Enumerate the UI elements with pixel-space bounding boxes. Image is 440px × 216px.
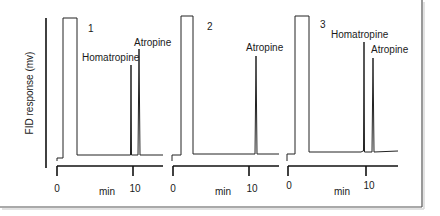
tick-label-10: 10	[129, 183, 141, 194]
peak-label-atropine: Atropine	[246, 42, 284, 53]
tick-label-0: 0	[286, 180, 292, 191]
tick-label-10: 10	[246, 183, 258, 194]
panel-number: 2	[207, 21, 213, 32]
x-axis-unit-label: min	[99, 186, 115, 197]
time-axis-3	[288, 166, 398, 176]
panel-2: 0 10 min 2 Atropine	[170, 16, 283, 197]
tick-label-0: 0	[54, 183, 60, 194]
chromatogram-figure: FID response (mv) 0 10 min 1 Homatropine…	[0, 0, 440, 216]
y-axis-label: FID response (mv)	[24, 52, 35, 135]
panel-3: 0 10 min 3 Homatropine Atropine	[286, 16, 408, 197]
panel-number: 3	[320, 19, 326, 30]
chromatogram-trace-2	[172, 16, 279, 161]
panel-number: 1	[88, 23, 94, 34]
peak-label-homatropine: Homatropine	[331, 29, 389, 40]
peak-label-homatropine: Homatropine	[82, 52, 140, 63]
panel-1: 0 10 min 1 Homatropine Atropine	[54, 18, 171, 197]
x-axis-unit-label: min	[334, 186, 350, 197]
tick-label-10: 10	[363, 180, 375, 191]
x-axis-unit-label: min	[215, 186, 231, 197]
y-axis: FID response (mv)	[24, 18, 46, 168]
peak-label-atropine: Atropine	[371, 44, 409, 55]
tick-label-0: 0	[170, 183, 176, 194]
peak-label-atropine: Atropine	[134, 37, 172, 48]
time-axis-2	[173, 166, 279, 176]
time-axis-1	[57, 166, 163, 176]
